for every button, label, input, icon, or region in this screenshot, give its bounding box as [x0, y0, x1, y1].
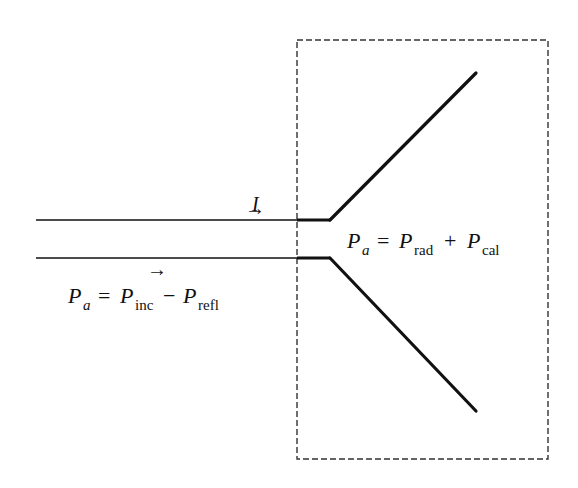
antenna-diagram: I → → P a = P inc − P refl P a = P rad +… [0, 0, 578, 488]
upper-arrow-icon: → [245, 197, 265, 219]
svg-text:rad: rad [414, 242, 434, 258]
equation-radiated-power: P a = P rad + P cal [346, 228, 499, 258]
svg-text:=: = [98, 283, 110, 308]
svg-text:P: P [466, 228, 480, 253]
antenna-arm-upper [330, 73, 476, 220]
svg-text:refl: refl [198, 297, 219, 313]
svg-text:−: − [163, 283, 175, 308]
antenna-arm-lower [330, 258, 476, 411]
svg-text:=: = [377, 228, 389, 253]
svg-text:P: P [119, 283, 133, 308]
svg-text:+: + [444, 228, 456, 253]
svg-text:inc: inc [135, 297, 154, 313]
svg-text:P: P [67, 283, 81, 308]
svg-text:P: P [398, 228, 412, 253]
lower-arrow-icon: → [147, 258, 167, 280]
svg-text:P: P [182, 283, 196, 308]
svg-text:a: a [362, 242, 370, 258]
svg-text:a: a [83, 297, 91, 313]
svg-text:cal: cal [482, 242, 499, 258]
equation-input-power: P a = P inc − P refl [67, 283, 219, 313]
svg-text:P: P [346, 228, 360, 253]
